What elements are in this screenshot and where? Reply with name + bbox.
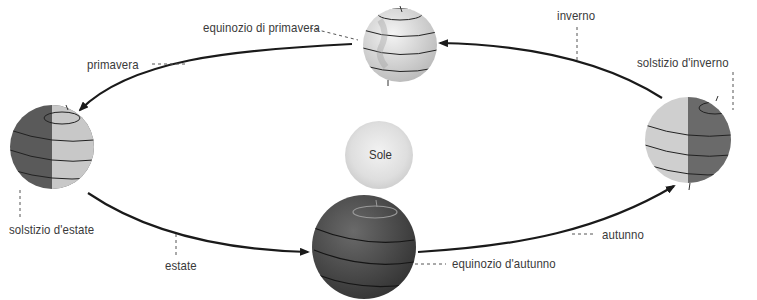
seasons-diagram: Sole equinozio di primavera primavera so… — [0, 0, 757, 300]
sun-label: Sole — [369, 147, 392, 162]
globe-solstizio-inverno — [645, 95, 738, 195]
label-equinozio-autunno: equinozio d'autunno — [452, 256, 556, 271]
label-autunno: autunno — [602, 227, 644, 242]
globe-solstizio-estate — [10, 100, 102, 200]
label-solstizio-estate: solstizio d'estate — [9, 222, 94, 237]
label-equinozio-primavera: equinozio di primavera — [203, 20, 320, 35]
label-estate: estate — [165, 258, 197, 273]
label-primavera: primavera — [87, 57, 139, 72]
globe-equinozio-autunno — [312, 195, 416, 299]
label-solstizio-inverno: solstizio d'inverno — [637, 55, 729, 70]
globe-equinozio-primavera — [363, 6, 437, 86]
label-inverno: inverno — [557, 8, 595, 23]
